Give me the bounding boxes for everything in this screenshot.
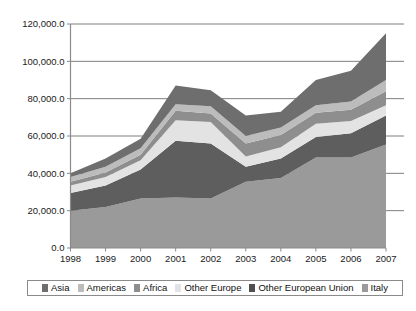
legend-item-other-european-union[interactable]: Other European Union [249, 283, 353, 293]
x-tick-label: 1998 [60, 253, 81, 264]
legend-swatch-icon [175, 284, 181, 292]
legend-swatch-icon [42, 284, 48, 292]
x-axis-labels: 1998199920002001200220032004200520062007 [60, 253, 397, 264]
legend-label: Other Europe [184, 283, 241, 293]
chart-legend: AsiaAmericasAfricaOther EuropeOther Euro… [27, 280, 403, 296]
y-axis-labels: 0.020,000.040,000.060,000.080,000.0100,0… [22, 18, 64, 253]
y-tick-label: 60,000.0 [28, 130, 65, 141]
y-tick-label: 0.0 [51, 242, 64, 253]
x-tick-label: 1999 [95, 253, 116, 264]
legend-item-africa[interactable]: Africa [134, 283, 167, 293]
legend-label: Italy [371, 283, 388, 293]
y-tick-label: 40,000.0 [28, 168, 65, 179]
legend-label: Asia [51, 283, 69, 293]
x-tick-label: 2003 [235, 253, 256, 264]
legend-swatch-icon [362, 284, 368, 292]
legend-item-other-europe[interactable]: Other Europe [175, 283, 241, 293]
legend-item-asia[interactable]: Asia [42, 283, 69, 293]
x-tick-label: 2004 [270, 253, 291, 264]
x-tick-label: 2007 [375, 253, 396, 264]
legend-label: Americas [87, 283, 127, 293]
legend-item-italy[interactable]: Italy [362, 283, 388, 293]
y-tick-label: 80,000.0 [28, 93, 65, 104]
x-tick-label: 2002 [200, 253, 221, 264]
chart-container: 0.020,000.040,000.060,000.080,000.0100,0… [0, 0, 416, 311]
y-tick-label: 120,000.0 [22, 18, 64, 29]
x-tick-label: 2001 [165, 253, 186, 264]
legend-item-americas[interactable]: Americas [78, 283, 127, 293]
legend-label: Other European Union [258, 283, 353, 293]
stacked-area-plot: 0.020,000.040,000.060,000.080,000.0100,0… [0, 0, 416, 278]
x-tick-label: 2005 [305, 253, 326, 264]
legend-swatch-icon [249, 284, 255, 292]
y-tick-label: 100,000.0 [22, 56, 64, 67]
x-tick-label: 2000 [130, 253, 151, 264]
y-tick-label: 20,000.0 [28, 205, 65, 216]
legend-swatch-icon [134, 284, 140, 292]
area-series-group [71, 33, 387, 248]
legend-swatch-icon [78, 284, 84, 292]
x-tick-label: 2006 [340, 253, 361, 264]
legend-label: Africa [143, 283, 167, 293]
